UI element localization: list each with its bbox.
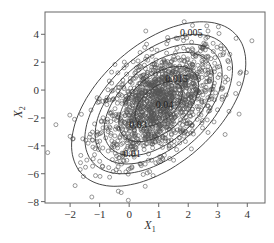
y-tick-label: 0 — [34, 84, 40, 96]
y-tick-label: 2 — [34, 56, 40, 68]
data-point — [46, 151, 50, 155]
data-point — [175, 148, 179, 152]
data-point — [190, 47, 194, 51]
data-point — [93, 153, 97, 157]
data-point — [203, 48, 207, 52]
data-point — [204, 85, 208, 89]
data-point — [101, 146, 105, 150]
contour-label: 0.04 — [156, 99, 174, 110]
data-point — [126, 172, 130, 176]
data-point — [155, 48, 159, 52]
data-point — [68, 134, 72, 138]
data-point — [182, 39, 186, 43]
data-point — [145, 171, 149, 175]
data-point — [106, 149, 110, 153]
data-point — [141, 173, 145, 177]
contour-label: 0.005 — [180, 27, 203, 38]
data-point — [91, 157, 95, 161]
data-point — [91, 164, 95, 168]
data-point — [217, 32, 221, 36]
data-point — [220, 97, 224, 101]
data-point — [148, 170, 152, 174]
data-point — [136, 59, 140, 63]
data-point — [101, 116, 105, 120]
data-point — [224, 75, 228, 79]
x-tick-label: 1 — [156, 208, 162, 220]
y-axis-ticks: −8−6−4−2024 — [27, 28, 45, 207]
data-point — [113, 107, 117, 111]
data-point — [226, 78, 230, 82]
contour-label: 0.01 — [123, 148, 141, 159]
data-point — [107, 166, 111, 170]
x-axis-ticks: −2−101234 — [64, 203, 250, 220]
data-point — [227, 66, 231, 70]
y-tick-label: −2 — [27, 112, 39, 124]
y-tick-label: −8 — [27, 196, 39, 208]
data-point — [214, 91, 218, 95]
data-point — [206, 131, 210, 135]
contour-label: 0.015 — [165, 73, 188, 84]
data-point — [250, 39, 254, 43]
data-point — [142, 148, 146, 152]
data-point — [98, 174, 102, 178]
data-point — [110, 70, 114, 74]
data-point — [105, 103, 109, 107]
x-tick-label: 0 — [126, 208, 132, 220]
data-point — [182, 46, 186, 50]
data-point — [165, 51, 169, 55]
data-point — [120, 101, 124, 105]
data-point — [237, 112, 241, 116]
data-point — [68, 113, 72, 117]
data-point — [115, 101, 119, 105]
data-point — [213, 56, 217, 60]
data-point — [234, 92, 238, 96]
y-tick-label: −4 — [27, 140, 39, 152]
data-point — [211, 41, 215, 45]
data-point — [189, 147, 193, 151]
data-point — [223, 133, 227, 137]
y-tick-label: 4 — [34, 28, 40, 40]
data-point — [54, 123, 58, 127]
data-point — [73, 184, 77, 188]
data-point — [215, 45, 219, 49]
data-point — [143, 184, 147, 188]
x-tick-label: 4 — [245, 208, 251, 220]
data-point — [85, 158, 89, 162]
data-point — [98, 139, 102, 143]
x-tick-label: 3 — [215, 208, 221, 220]
data-point — [84, 165, 88, 169]
data-point — [98, 159, 102, 163]
x-tick-label: 2 — [185, 208, 191, 220]
y-axis-label: X2 — [11, 106, 27, 118]
data-point — [216, 25, 220, 29]
data-point — [190, 40, 194, 44]
data-point — [201, 126, 205, 130]
x-axis-label: X1 — [143, 218, 155, 234]
data-point — [182, 55, 186, 59]
data-point — [108, 175, 112, 179]
data-point — [144, 29, 148, 33]
y-tick-label: −6 — [27, 168, 39, 180]
data-point — [205, 24, 209, 28]
data-point — [206, 29, 210, 33]
data-point — [172, 158, 176, 162]
scatter-contour-chart: 0.0050.010.0150.030.04 −2−101234 −8−6−4−… — [0, 0, 274, 243]
data-point — [79, 112, 83, 116]
data-point — [205, 118, 209, 122]
data-point — [106, 88, 110, 92]
data-point — [175, 46, 179, 50]
data-point — [79, 153, 83, 157]
data-point — [226, 60, 230, 64]
data-point — [122, 60, 126, 64]
data-point — [116, 165, 120, 169]
data-point — [182, 20, 186, 24]
data-point — [113, 134, 117, 138]
x-tick-label: −2 — [64, 208, 76, 220]
x-tick-label: −1 — [94, 208, 106, 220]
data-point — [166, 36, 170, 40]
data-point — [90, 195, 94, 199]
data-point — [79, 161, 83, 165]
data-point — [143, 45, 147, 49]
data-point — [126, 198, 130, 202]
data-point — [143, 162, 147, 166]
